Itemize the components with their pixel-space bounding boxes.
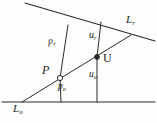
geometry-diagram: Lr Lo pr po ur uo P U (0, 0, 157, 123)
label-pr-sub: r (53, 39, 56, 46)
label-segment-pr: pr (47, 36, 55, 47)
label-line-Lr: Lr (126, 14, 135, 25)
label-point-U: U (103, 52, 112, 64)
label-segment-ur: ur (89, 30, 96, 40)
label-uo-sub: o (94, 74, 97, 80)
label-line-Lo: Lo (13, 103, 23, 114)
ray-through-P-and-U (22, 35, 131, 102)
label-segment-po: po (58, 82, 66, 92)
label-po-sub: o (63, 86, 66, 92)
label-Lo-sub: o (19, 108, 22, 115)
label-U-base: U (103, 51, 112, 65)
label-P-base: P (42, 63, 49, 77)
point-U-marker (95, 55, 100, 60)
segment-ur (97, 22, 101, 57)
label-ur-sub: r (94, 34, 96, 41)
label-segment-uo: uo (89, 70, 97, 80)
segment-pr (60, 25, 68, 78)
label-point-P: P (42, 64, 49, 76)
label-Lr-sub: r (132, 19, 135, 26)
point-P-marker (57, 75, 62, 80)
